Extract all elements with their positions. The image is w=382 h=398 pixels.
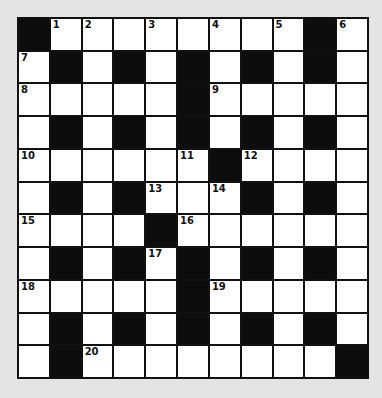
- crossword-cell[interactable]: [242, 215, 272, 246]
- black-square: [178, 52, 208, 83]
- crossword-cell[interactable]: [83, 117, 113, 148]
- crossword-cell[interactable]: [19, 314, 49, 345]
- crossword-cell[interactable]: 15: [19, 215, 49, 246]
- crossword-cell[interactable]: [337, 281, 367, 312]
- crossword-cell[interactable]: [274, 248, 304, 279]
- clue-number: 15: [21, 216, 35, 226]
- crossword-cell[interactable]: [114, 84, 144, 115]
- crossword-cell[interactable]: 9: [210, 84, 240, 115]
- crossword-cell[interactable]: 2: [83, 19, 113, 50]
- crossword-cell[interactable]: [274, 84, 304, 115]
- crossword-cell[interactable]: [242, 346, 272, 377]
- crossword-cell[interactable]: [19, 248, 49, 279]
- crossword-cell[interactable]: [178, 19, 208, 50]
- crossword-cell[interactable]: 19: [210, 281, 240, 312]
- black-square: [242, 183, 272, 214]
- black-square: [51, 52, 81, 83]
- crossword-cell[interactable]: [337, 52, 367, 83]
- crossword-cell[interactable]: [83, 248, 113, 279]
- crossword-cell[interactable]: [51, 84, 81, 115]
- black-square: [146, 215, 176, 246]
- black-square: [51, 346, 81, 377]
- crossword-cell[interactable]: [305, 346, 335, 377]
- crossword-cell[interactable]: [114, 19, 144, 50]
- crossword-cell[interactable]: [210, 314, 240, 345]
- crossword-cell[interactable]: [114, 215, 144, 246]
- crossword-cell[interactable]: 8: [19, 84, 49, 115]
- clue-number: 9: [212, 85, 219, 95]
- crossword-cell[interactable]: 12: [242, 150, 272, 181]
- crossword-cell[interactable]: [83, 52, 113, 83]
- crossword-cell[interactable]: 6: [337, 19, 367, 50]
- crossword-cell[interactable]: 18: [19, 281, 49, 312]
- crossword-cell[interactable]: [83, 150, 113, 181]
- crossword-cell[interactable]: 5: [274, 19, 304, 50]
- crossword-cell[interactable]: [274, 183, 304, 214]
- crossword-cell[interactable]: [305, 215, 335, 246]
- crossword-cell[interactable]: [210, 117, 240, 148]
- crossword-cell[interactable]: [337, 215, 367, 246]
- crossword-cell[interactable]: [146, 117, 176, 148]
- crossword-cell[interactable]: [305, 84, 335, 115]
- crossword-cell[interactable]: [305, 150, 335, 181]
- crossword-cell[interactable]: 1: [51, 19, 81, 50]
- crossword-cell[interactable]: [274, 215, 304, 246]
- crossword-cell[interactable]: [146, 150, 176, 181]
- crossword-cell[interactable]: [146, 314, 176, 345]
- crossword-cell[interactable]: [83, 84, 113, 115]
- crossword-cell[interactable]: [146, 346, 176, 377]
- crossword-cell[interactable]: 20: [83, 346, 113, 377]
- crossword-cell[interactable]: 13: [146, 183, 176, 214]
- crossword-cell[interactable]: 17: [146, 248, 176, 279]
- crossword-cell[interactable]: [242, 281, 272, 312]
- crossword-cell[interactable]: [210, 346, 240, 377]
- crossword-cell[interactable]: [178, 346, 208, 377]
- crossword-cell[interactable]: [242, 19, 272, 50]
- crossword-cell[interactable]: [210, 215, 240, 246]
- crossword-cell[interactable]: [51, 150, 81, 181]
- crossword-cell[interactable]: [274, 314, 304, 345]
- crossword-cell[interactable]: [274, 150, 304, 181]
- crossword-cell[interactable]: 16: [178, 215, 208, 246]
- crossword-cell[interactable]: [274, 117, 304, 148]
- crossword-cell[interactable]: [274, 52, 304, 83]
- crossword-cell[interactable]: [337, 150, 367, 181]
- crossword-cell[interactable]: [146, 52, 176, 83]
- clue-number: 14: [212, 184, 226, 194]
- crossword-cell[interactable]: 14: [210, 183, 240, 214]
- crossword-cell[interactable]: 10: [19, 150, 49, 181]
- crossword-cell[interactable]: [114, 281, 144, 312]
- crossword-cell[interactable]: [242, 84, 272, 115]
- crossword-cell[interactable]: [337, 84, 367, 115]
- crossword-cell[interactable]: [83, 183, 113, 214]
- crossword-cell[interactable]: [51, 281, 81, 312]
- crossword-cell[interactable]: [51, 215, 81, 246]
- crossword-cell[interactable]: [114, 150, 144, 181]
- crossword-cell[interactable]: [114, 346, 144, 377]
- crossword-cell[interactable]: [19, 346, 49, 377]
- clue-number: 11: [180, 151, 194, 161]
- crossword-cell[interactable]: [337, 314, 367, 345]
- crossword-cell[interactable]: [337, 183, 367, 214]
- crossword-cell[interactable]: 7: [19, 52, 49, 83]
- crossword-cell[interactable]: [146, 281, 176, 312]
- crossword-cell[interactable]: [210, 248, 240, 279]
- crossword-cell[interactable]: [210, 52, 240, 83]
- crossword-cell[interactable]: 4: [210, 19, 240, 50]
- crossword-cell[interactable]: [19, 183, 49, 214]
- crossword-cell[interactable]: [83, 215, 113, 246]
- crossword-cell[interactable]: [178, 183, 208, 214]
- crossword-cell[interactable]: [337, 248, 367, 279]
- crossword-cell[interactable]: [83, 314, 113, 345]
- crossword-cell[interactable]: [274, 281, 304, 312]
- clue-number: 5: [276, 20, 283, 30]
- crossword-cell[interactable]: [305, 281, 335, 312]
- crossword-cell[interactable]: [274, 346, 304, 377]
- crossword-cell[interactable]: [83, 281, 113, 312]
- crossword-cell[interactable]: 3: [146, 19, 176, 50]
- crossword-cell[interactable]: [146, 84, 176, 115]
- crossword-cell[interactable]: [19, 117, 49, 148]
- crossword-cell[interactable]: 11: [178, 150, 208, 181]
- crossword-cell[interactable]: [337, 117, 367, 148]
- clue-number: 16: [180, 216, 194, 226]
